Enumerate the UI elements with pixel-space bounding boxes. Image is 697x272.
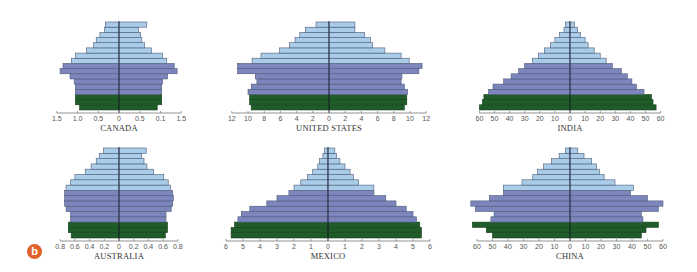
x-axis-tick-label: 50 (644, 243, 652, 250)
country-label-mexico: MEXICO (311, 251, 346, 261)
age-bar-left (551, 159, 570, 164)
x-axis-tick-label: 60 (659, 243, 667, 250)
x-axis-tick-label: 10 (551, 243, 559, 250)
age-bar-right (570, 185, 634, 190)
x-axis-tick-label: 60 (473, 243, 481, 250)
x-axis-tick-label: 10 (582, 243, 590, 250)
country-label-china: CHINA (556, 251, 584, 261)
age-bar-right (570, 212, 641, 217)
country-label-united-states: UNITED STATES (296, 123, 362, 133)
age-bar-left (544, 164, 570, 169)
age-bar-right (570, 153, 584, 158)
x-axis-tick-label: 50 (489, 243, 497, 250)
age-bar-right (570, 190, 631, 195)
pyramid-svg: 6050403020100102030405060 (0, 0, 697, 272)
x-axis-tick-label: 30 (520, 243, 528, 250)
age-bar-right (570, 164, 596, 169)
age-bar-left (494, 212, 570, 217)
age-bar-right (570, 206, 658, 211)
x-axis-tick-label: 30 (613, 243, 621, 250)
x-axis-tick-label: 20 (535, 243, 543, 250)
country-label-australia: AUSTRALIA (94, 251, 144, 261)
age-bar-right (570, 217, 643, 222)
age-bar-left (486, 227, 570, 232)
age-bar-right (570, 175, 604, 180)
age-bar-right (570, 169, 599, 174)
age-bar-right (570, 148, 578, 153)
country-label-india: INDIA (557, 123, 582, 133)
age-bar-right (570, 233, 641, 238)
country-label-canada: CANADA (100, 123, 138, 133)
age-bar-left (471, 201, 570, 206)
age-bar-left (491, 217, 570, 222)
x-axis-tick-label: 40 (628, 243, 636, 250)
age-bar-right (570, 222, 658, 227)
age-bar-left (503, 185, 570, 190)
age-bar-left (489, 196, 570, 201)
age-bar-right (570, 159, 592, 164)
panel-label-badge: b (27, 244, 42, 259)
age-bar-left (503, 190, 570, 195)
age-bar-left (533, 175, 570, 180)
x-axis-tick-label: 20 (597, 243, 605, 250)
age-bar-left (559, 153, 570, 158)
age-bar-left (522, 180, 570, 185)
age-bar-left (565, 148, 570, 153)
age-bar-left (493, 233, 571, 238)
age-bar-right (570, 196, 648, 201)
x-axis-tick-label: 0 (568, 243, 572, 250)
age-bar-right (570, 201, 663, 206)
age-bar-left (475, 206, 570, 211)
x-axis-tick-label: 40 (504, 243, 512, 250)
age-bar-left (538, 169, 571, 174)
age-bar-right (570, 180, 615, 185)
age-bar-left (472, 222, 570, 227)
age-bar-right (570, 227, 646, 232)
